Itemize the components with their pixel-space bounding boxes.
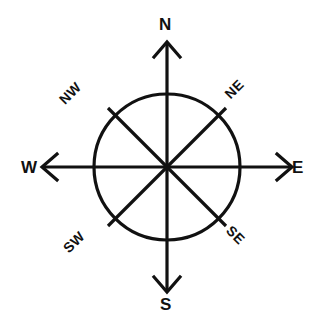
compass-rose-figure: N S E W NW NE SW SE [0,0,324,335]
direction-label-south: S [160,296,172,313]
direction-label-west: W [21,159,38,176]
compass-diagram-svg [0,0,324,335]
direction-label-north: N [159,16,172,33]
direction-label-east: E [292,159,304,176]
